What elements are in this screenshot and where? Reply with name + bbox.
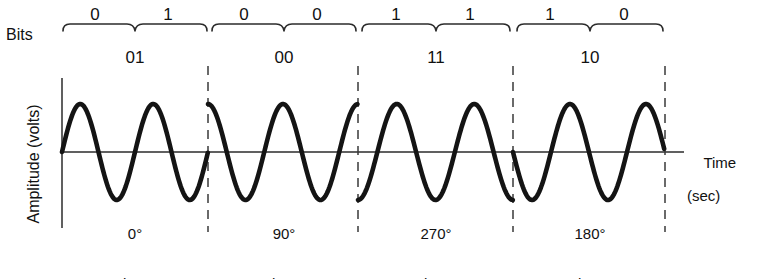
- dibit-label-2: 00: [254, 48, 314, 67]
- bit-digit-4a: 1: [530, 5, 570, 24]
- brace-segment-3: [362, 24, 510, 31]
- bit-braces: [63, 24, 663, 31]
- bit-digit-4b: 0: [604, 5, 644, 24]
- phase-label-1: 0° phase shift: [80, 192, 190, 279]
- phase-degrees-3: 270°: [381, 226, 491, 243]
- bits-row-label: Bits: [6, 26, 33, 44]
- bit-digit-3a: 1: [376, 5, 416, 24]
- psk-waveform-figure: Bits 0 1 01 0° phase shift 0 0 00 90° ph…: [0, 0, 758, 279]
- phase-label-2: 90° phase shift: [229, 192, 339, 279]
- x-axis-label-line1: Time: [703, 154, 736, 171]
- bit-digit-3b: 1: [450, 5, 490, 24]
- phase-degrees-4: 180°: [535, 226, 645, 243]
- phase-degrees-2: 90°: [229, 226, 339, 243]
- phase-label-4: 180° phase shift: [535, 192, 645, 279]
- brace-segment-1: [63, 24, 207, 31]
- y-axis-label: Amplitude (volts): [25, 99, 43, 229]
- phase-degrees-1: 0°: [80, 226, 190, 243]
- bit-digit-2a: 0: [224, 5, 264, 24]
- x-axis-label: Time (sec): [687, 138, 736, 239]
- bit-digit-1a: 0: [75, 5, 115, 24]
- dibit-label-4: 10: [560, 48, 620, 67]
- x-axis-label-line2: (sec): [687, 188, 736, 205]
- bit-digit-2b: 0: [297, 5, 337, 24]
- dibit-label-1: 01: [105, 48, 165, 67]
- brace-segment-2: [212, 24, 356, 31]
- bit-digit-1b: 1: [148, 5, 188, 24]
- phase-label-3: 270° phase shift: [381, 192, 491, 279]
- dibit-label-3: 11: [406, 48, 466, 67]
- brace-segment-4: [517, 24, 663, 31]
